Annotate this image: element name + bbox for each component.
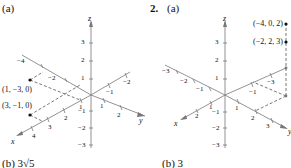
point2-dash-b — [30, 115, 42, 121]
point-2-label: (−2, 2, 3) — [253, 37, 283, 46]
point-1-marker — [284, 22, 287, 25]
point-2-marker — [284, 40, 287, 43]
x-axis-label: x — [11, 137, 15, 146]
z-tick-3: 3 — [215, 38, 219, 46]
point-2-marker — [28, 113, 31, 116]
axis-point-marker — [285, 67, 288, 70]
z-tick-neg3: −3 — [78, 141, 85, 149]
figure-2-part-b-label: (b) 3 — [162, 157, 183, 168]
y-tick-neg1: −1 — [249, 88, 256, 96]
figure-1-part-b-label: (b) 3√5 — [2, 157, 35, 168]
figure-2-panel: 2. (a) — [145, 0, 291, 168]
x-tick-1: 1 — [79, 103, 83, 111]
x-tick-4: 4 — [32, 132, 36, 140]
x-tick-2: 2 — [195, 112, 199, 120]
point1-dash-b — [30, 80, 80, 100]
z-tick-2: 2 — [81, 56, 85, 64]
z-tick-neg2: −2 — [212, 124, 219, 132]
y-axis-label: y — [139, 116, 143, 125]
x-tick-2: 2 — [64, 114, 68, 122]
z-tick-3: 3 — [81, 38, 85, 46]
z-tick-neg3: −3 — [212, 141, 219, 149]
z-axis-label: z — [223, 14, 226, 23]
z-tick-1: 1 — [215, 74, 219, 82]
x-tick-neg4: −4 — [17, 57, 24, 65]
point-2-label: (3, −1, 0) — [2, 101, 32, 110]
point-1-marker — [28, 78, 31, 81]
y-tick-neg2: −2 — [123, 78, 130, 86]
z-tick-1: 1 — [81, 74, 85, 82]
x-axis-label: x — [174, 119, 178, 128]
dash-to-y-axis-2 — [255, 96, 286, 111]
x-arrow-icon — [180, 115, 187, 120]
y-arrow-icon — [280, 124, 288, 129]
point-1-label: (−4, 0, 2) — [253, 19, 283, 28]
figure-1-panel: (a) — [0, 0, 145, 168]
x-tick-neg2: −2 — [48, 74, 55, 82]
z-tick-neg2: −2 — [78, 124, 85, 132]
x-tick-neg2: −2 — [180, 77, 187, 85]
point2-dash-a — [30, 85, 80, 115]
x-tick-neg3: −3 — [162, 67, 169, 75]
y-tick-2: 2 — [117, 111, 121, 119]
x-arrow-icon — [16, 131, 23, 136]
y-tick-neg1: −1 — [106, 88, 113, 96]
x-tick-neg1: −1 — [196, 85, 203, 93]
y-axis-label: y — [288, 127, 291, 136]
x-tick-3: 3 — [48, 123, 52, 131]
x-tick-1: 1 — [209, 103, 213, 111]
z-tick-neg1: −1 — [212, 108, 219, 116]
z-tick-2: 2 — [215, 56, 219, 64]
y-tick-2: 2 — [251, 114, 255, 122]
base-point-marker — [285, 95, 288, 98]
point-1-label: (1, −3, 0) — [2, 85, 32, 94]
y-tick-1: 1 — [100, 102, 104, 110]
y-tick-1: 1 — [235, 104, 239, 112]
z-axis-label: z — [88, 14, 91, 23]
point1-dash-a — [30, 72, 43, 80]
y-tick-neg3: −3 — [267, 78, 274, 86]
y-tick-3: 3 — [266, 122, 270, 130]
